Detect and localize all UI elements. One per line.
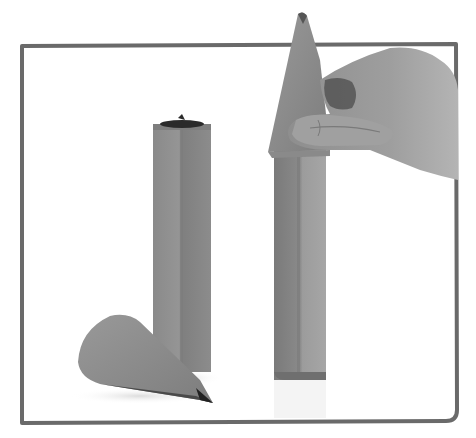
tall-tube — [274, 148, 326, 380]
short-tube — [153, 114, 211, 372]
floor-reflection-right — [274, 380, 326, 418]
photo-scene — [0, 0, 476, 438]
